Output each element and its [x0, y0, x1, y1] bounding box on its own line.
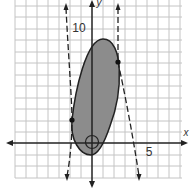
shaded-region [72, 39, 120, 155]
solid-point [115, 59, 120, 64]
y-axis-up-arrow-icon [89, 0, 95, 7]
x-tick-label: 5 [146, 145, 153, 159]
y-tick-label: 10 [72, 21, 86, 35]
x-axis-right-arrow-icon [181, 140, 188, 146]
graph: 10 5 x y [0, 0, 192, 190]
left-dashed-curve [66, 8, 72, 176]
solid-point [69, 117, 74, 122]
y-axis-label: y [96, 0, 103, 8]
y-axis-down-arrow-icon [89, 181, 95, 188]
x-axis-label: x [183, 127, 190, 138]
x-axis-left-arrow-icon [6, 140, 13, 146]
